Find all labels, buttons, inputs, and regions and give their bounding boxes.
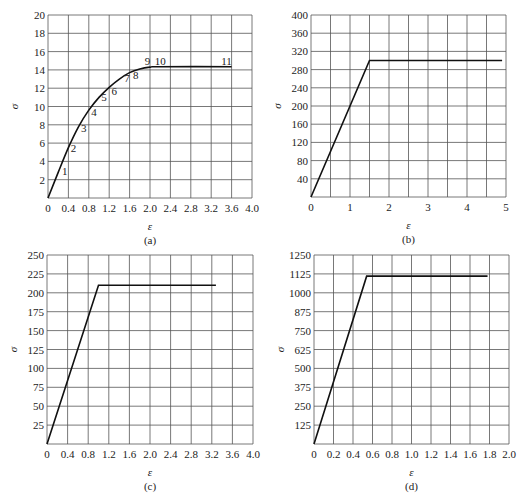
y-axis-label: σ: [8, 103, 20, 109]
chart-caption: (d): [405, 480, 418, 493]
data-line: [48, 67, 232, 198]
point-label: 11: [221, 55, 232, 67]
x-tick-labels: 00.40.81.21.62.02.42.83.23.64.0: [44, 448, 260, 460]
x-tick-label: 2.4: [164, 448, 178, 460]
y-tick-label: 100: [28, 362, 45, 374]
point-label: 4: [91, 106, 97, 118]
chart-c-svg: 00.40.81.21.62.02.42.83.23.64.0255075100…: [0, 250, 270, 500]
x-tick-label: 1.2: [102, 202, 116, 214]
y-tick-label: 125: [28, 344, 45, 356]
x-tick-label: 1.8: [483, 448, 497, 460]
x-tick-label: 0: [308, 201, 314, 213]
chart-a-svg: 00.40.81.21.62.02.42.83.23.64.0246810121…: [0, 0, 270, 250]
y-tick-label: 4: [40, 155, 46, 167]
chart-d: 00.20.40.60.81.01.21.41.61.82.0125250375…: [265, 250, 523, 500]
x-tick-label: 3.2: [204, 202, 218, 214]
point-label: 10: [155, 55, 167, 67]
x-tick-label: 4.0: [246, 448, 260, 460]
y-tick-label: 375: [295, 381, 312, 393]
grid: [311, 15, 506, 197]
y-tick-label: 175: [28, 306, 45, 318]
y-axis-label: σ: [271, 103, 283, 109]
x-tick-label: 3.6: [225, 202, 239, 214]
x-axis-label: ε: [148, 220, 153, 232]
x-tick-label: 1.6: [463, 448, 477, 460]
x-tick-label: 2.0: [502, 448, 516, 460]
y-tick-label: 250: [28, 250, 45, 261]
y-tick-label: 320: [292, 45, 309, 57]
point-label: 8: [133, 69, 139, 81]
x-tick-label: 0: [44, 448, 50, 460]
y-tick-label: 225: [28, 268, 45, 280]
chart-b-svg: 0123454080120160200240280320360400εσ(b): [265, 0, 523, 250]
x-tick-label: 0.4: [346, 448, 360, 460]
x-tick-label: 4.0: [245, 202, 259, 214]
x-tick-label: 1.2: [424, 448, 438, 460]
point-label: 1: [62, 165, 68, 177]
x-tick-label: 1.6: [123, 202, 137, 214]
data-line: [311, 61, 502, 198]
x-tick-label: 2.8: [184, 448, 198, 460]
x-tick-label: 1: [347, 201, 353, 213]
y-tick-label: 500: [295, 362, 312, 374]
y-tick-label: 16: [34, 46, 46, 58]
y-tick-label: 1125: [289, 268, 311, 280]
point-label: 7: [124, 72, 130, 84]
x-tick-labels: 00.20.40.60.81.01.21.41.61.82.0: [311, 448, 516, 460]
y-tick-label: 25: [33, 419, 45, 431]
x-tick-label: 5: [503, 201, 509, 213]
x-tick-label: 1.4: [444, 448, 458, 460]
x-tick-label: 2.0: [143, 448, 157, 460]
x-tick-label: 2.8: [184, 202, 198, 214]
x-tick-label: 1.2: [102, 448, 116, 460]
y-tick-label: 250: [295, 400, 312, 412]
y-tick-label: 750: [295, 325, 312, 337]
x-tick-label: 0.2: [327, 448, 341, 460]
y-tick-label: 120: [292, 136, 309, 148]
chart-caption: (b): [402, 233, 415, 246]
x-tick-label: 2.0: [143, 202, 157, 214]
chart-d-svg: 00.20.40.60.81.01.21.41.61.82.0125250375…: [265, 250, 523, 500]
y-tick-label: 75: [33, 381, 45, 393]
y-tick-label: 40: [297, 173, 309, 185]
y-tick-label: 875: [295, 306, 312, 318]
y-tick-labels: 2468101214161820: [34, 9, 46, 186]
chart-c: 00.40.81.21.62.02.42.83.23.64.0255075100…: [0, 250, 270, 500]
x-tick-labels: 00.40.81.21.62.02.42.83.23.64.0: [45, 202, 259, 214]
x-tick-label: 2.4: [164, 202, 178, 214]
x-tick-label: 0.8: [82, 202, 96, 214]
y-tick-label: 125: [295, 419, 312, 431]
y-axis-label: σ: [7, 346, 19, 352]
x-tick-label: 0.4: [61, 448, 75, 460]
chart-caption: (c): [144, 480, 157, 493]
y-tick-label: 1250: [289, 250, 312, 261]
y-tick-label: 200: [28, 287, 45, 299]
point-label: 5: [101, 91, 107, 103]
y-tick-label: 6: [40, 137, 46, 149]
y-tick-label: 160: [292, 118, 309, 130]
y-tick-label: 50: [33, 400, 45, 412]
x-tick-label: 1.0: [405, 448, 419, 460]
y-tick-label: 20: [34, 9, 46, 21]
chart-b: 0123454080120160200240280320360400εσ(b): [265, 0, 523, 250]
x-tick-label: 0.8: [385, 448, 399, 460]
x-tick-label: 1.6: [123, 448, 137, 460]
x-tick-labels: 012345: [308, 201, 509, 213]
x-tick-label: 0.8: [81, 448, 95, 460]
x-tick-label: 2: [386, 201, 392, 213]
x-tick-label: 0: [45, 202, 51, 214]
y-tick-label: 2: [40, 174, 46, 186]
y-tick-label: 14: [34, 64, 46, 76]
y-tick-label: 280: [292, 64, 309, 76]
x-tick-label: 3.6: [226, 448, 240, 460]
x-tick-label: 0: [311, 448, 317, 460]
point-label: 3: [81, 122, 87, 134]
data-line: [47, 285, 216, 444]
y-tick-label: 18: [34, 27, 46, 39]
y-axis-label: σ: [274, 346, 286, 352]
y-tick-label: 360: [292, 27, 309, 39]
point-labels: 1234567891011: [62, 55, 232, 177]
y-tick-labels: 255075100125150175200225250: [28, 250, 45, 431]
chart-caption: (a): [144, 234, 157, 247]
y-tick-label: 12: [34, 82, 45, 94]
